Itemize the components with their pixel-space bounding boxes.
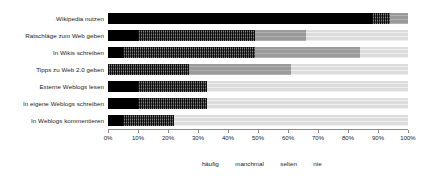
stacked-bar[interactable]: [108, 30, 408, 41]
category-label: In Wikis schreiben: [0, 49, 108, 56]
category-label: Ratschläge zum Web geben: [0, 32, 108, 39]
chart-row: In Weblogs kommentieren: [0, 112, 426, 129]
chart-plot-area: Wikipedia nutzenRatschläge zum Web geben…: [0, 10, 426, 129]
bar-segment-häufig[interactable]: [108, 98, 138, 109]
stacked-bar[interactable]: [108, 81, 408, 92]
legend-swatch-icon: [306, 162, 311, 167]
x-tick: [228, 130, 229, 133]
stacked-bar[interactable]: [108, 64, 408, 75]
bar-segment-nie[interactable]: [174, 115, 408, 126]
stacked-bar[interactable]: [108, 115, 408, 126]
bar-segment-nie[interactable]: [360, 47, 408, 58]
x-tick-label: 0%: [104, 134, 113, 142]
bar-segment-selten[interactable]: [255, 47, 360, 58]
x-tick: [408, 130, 409, 133]
chart-row: Wikipedia nutzen: [0, 10, 426, 27]
x-tick-label: 70%: [312, 134, 324, 142]
x-tick: [168, 130, 169, 133]
legend-item-häufig[interactable]: häufig: [194, 160, 218, 168]
bar-segment-häufig[interactable]: [108, 81, 138, 92]
bar-segment-häufig[interactable]: [108, 13, 372, 24]
legend-item-manchmal[interactable]: manchmal: [228, 160, 264, 168]
category-label: Wikipedia nutzen: [0, 15, 108, 22]
chart-legend: häufigmanchmalseltennie: [108, 160, 408, 168]
x-tick-label: 50%: [252, 134, 264, 142]
stacked-bar[interactable]: [108, 13, 408, 24]
legend-label: häufig: [202, 160, 219, 168]
chart-row: In Wikis schreiben: [0, 44, 426, 61]
x-tick: [198, 130, 199, 133]
category-label: In Weblogs kommentieren: [0, 117, 108, 124]
stacked-bar[interactable]: [108, 47, 408, 58]
bar-segment-häufig[interactable]: [108, 30, 138, 41]
category-label: Tipps zu Web 2.0 geben: [0, 66, 108, 73]
stacked-bar[interactable]: [108, 98, 408, 109]
x-tick-label: 60%: [282, 134, 294, 142]
legend-swatch-icon: [273, 162, 278, 167]
bar-segment-manchmal[interactable]: [138, 98, 207, 109]
chart-row: In eigene Weblogs schreiben: [0, 95, 426, 112]
x-tick-label: 10%: [132, 134, 144, 142]
x-tick: [378, 130, 379, 133]
bar-segment-häufig[interactable]: [108, 47, 123, 58]
bar-segment-manchmal[interactable]: [138, 30, 255, 41]
x-tick-label: 40%: [222, 134, 234, 142]
x-tick-label: 90%: [372, 134, 384, 142]
x-axis-tickmarks: [108, 130, 408, 133]
legend-label: selten: [280, 160, 297, 168]
bar-segment-selten[interactable]: [255, 30, 306, 41]
x-axis-tick-labels: 0%10%20%30%40%50%60%70%80%90%100%: [108, 134, 408, 144]
x-tick: [138, 130, 139, 133]
legend-label: nie: [313, 160, 321, 168]
chart-row: Tipps zu Web 2.0 geben: [0, 61, 426, 78]
x-tick-label: 80%: [342, 134, 354, 142]
bar-segment-nie[interactable]: [306, 30, 408, 41]
bar-segment-selten[interactable]: [390, 13, 408, 24]
bar-segment-manchmal[interactable]: [372, 13, 390, 24]
x-tick: [348, 130, 349, 133]
bar-segment-nie[interactable]: [291, 64, 408, 75]
bar-segment-selten[interactable]: [189, 64, 291, 75]
legend-item-nie[interactable]: nie: [306, 160, 322, 168]
x-tick: [108, 130, 109, 133]
legend-item-selten[interactable]: selten: [273, 160, 297, 168]
x-tick: [318, 130, 319, 133]
bar-segment-manchmal[interactable]: [123, 115, 174, 126]
legend-swatch-icon: [194, 162, 199, 167]
chart-row: Externe Weblogs lesen: [0, 78, 426, 95]
bar-segment-manchmal[interactable]: [138, 81, 207, 92]
stacked-bar-chart: Wikipedia nutzenRatschläge zum Web geben…: [0, 0, 426, 182]
chart-row: Ratschläge zum Web geben: [0, 27, 426, 44]
x-tick-label: 100%: [400, 134, 415, 142]
bar-segment-nie[interactable]: [207, 81, 408, 92]
legend-swatch-icon: [228, 162, 233, 167]
category-label: Externe Weblogs lesen: [0, 83, 108, 90]
bar-segment-häufig[interactable]: [108, 115, 123, 126]
legend-label: manchmal: [235, 160, 264, 168]
x-tick: [288, 130, 289, 133]
x-tick-label: 30%: [192, 134, 204, 142]
x-tick: [258, 130, 259, 133]
bar-segment-manchmal[interactable]: [108, 64, 189, 75]
bar-segment-nie[interactable]: [207, 98, 408, 109]
x-tick-label: 20%: [162, 134, 174, 142]
bar-segment-manchmal[interactable]: [123, 47, 255, 58]
category-label: In eigene Weblogs schreiben: [0, 100, 108, 107]
